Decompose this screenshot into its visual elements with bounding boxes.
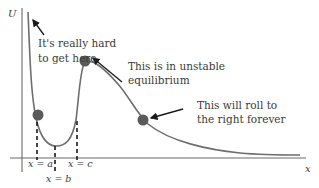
y-axis-label: U [8, 8, 17, 19]
marker-label-a: x = a [28, 158, 53, 169]
arrow-roll [151, 109, 183, 118]
ball-stable [33, 110, 44, 121]
marker-label-c: x = c [68, 158, 93, 169]
arrow-unstable [93, 58, 122, 82]
x-axis-label: x [305, 163, 311, 174]
arrow-hard [33, 20, 44, 35]
annotation-unstable: This is in unstable equilibrium [128, 60, 228, 86]
annotation-roll: This will roll to the right forever [197, 99, 287, 125]
ball-rolling [138, 115, 149, 126]
annotation-hard: It's really hard to get here [38, 37, 120, 64]
potential-energy-diagram: U x x = a x = b x = c It's really hard t… [0, 0, 319, 188]
marker-label-b: x = b [46, 173, 71, 184]
